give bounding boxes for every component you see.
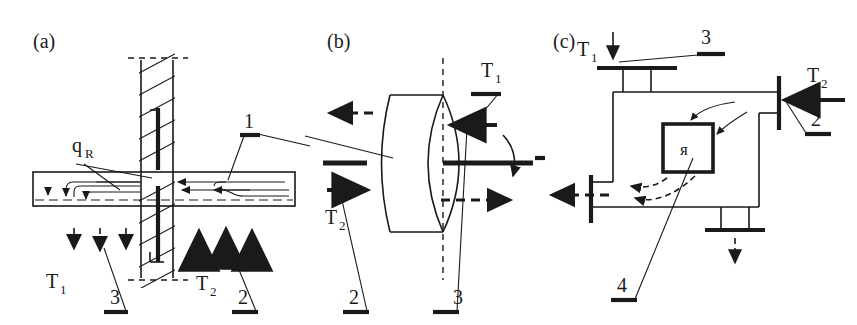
wall-section — [128, 48, 188, 294]
panel-b: (b) T 1 — [305, 0, 540, 325]
temp2-group: T 2 — [787, 64, 845, 100]
temp2-arrows — [199, 232, 252, 250]
cylinder-left-edge — [382, 95, 391, 232]
flow-lines-right — [178, 182, 289, 196]
cylinder-right-face-inner — [428, 95, 443, 232]
core-symbol: я — [680, 140, 688, 159]
temp2-label: T — [325, 206, 337, 228]
callout-3-leader — [619, 55, 698, 62]
panel-c: (c) я — [535, 0, 857, 325]
panel-a-label: (a) — [33, 30, 55, 53]
temp1-group: T 1 — [471, 59, 502, 122]
callout-2-group: 2 — [341, 196, 369, 312]
temp1-label: T — [481, 59, 493, 81]
panel-b-label: (b) — [327, 30, 350, 53]
channel-body — [33, 172, 295, 206]
callout-2-group: 2 — [230, 248, 258, 312]
callout-3-group: 3 — [619, 26, 725, 62]
temp2-label-subscript: 2 — [821, 76, 828, 91]
temp1-arrows — [74, 228, 126, 250]
temp1-group: T 1 — [577, 32, 613, 65]
callout-1-label: 1 — [244, 110, 254, 132]
temp2-label: T — [196, 272, 208, 294]
temp2-label-subscript: 2 — [339, 218, 346, 233]
flow-lines-left — [48, 182, 140, 199]
callout-2-leader — [785, 100, 806, 133]
callout-1-group: 1 — [228, 110, 310, 180]
temp1-leader — [475, 93, 499, 122]
temp1-label-subscript: 1 — [60, 282, 67, 297]
figure-root: (a) — [0, 0, 857, 325]
temp1-label: T — [46, 270, 58, 292]
outlet-arrow-1 — [631, 178, 667, 187]
temp1-label: T — [577, 38, 589, 60]
callout-1-leader-into-b — [305, 136, 393, 158]
callout-1-leader-b — [228, 136, 244, 180]
panel-a: (a) — [0, 0, 310, 325]
inlet-arrow-2 — [717, 112, 747, 134]
callout-1-leader-a — [258, 134, 310, 146]
temp1-label-subscript: 1 — [495, 71, 502, 86]
callout-3-group: 3 — [104, 248, 128, 312]
callout-3-label: 3 — [701, 26, 711, 48]
rotation-arrow — [503, 135, 515, 176]
core-element: я — [663, 124, 713, 172]
temp2-group: T 2 — [325, 206, 346, 233]
callout-2-label: 2 — [811, 108, 821, 130]
callout-2-group: 2 — [785, 100, 831, 134]
panel-c-label: (c) — [553, 30, 575, 53]
callout-4-label: 4 — [617, 274, 627, 296]
temp2-label: T — [807, 64, 819, 86]
inlet-arrow-1 — [691, 102, 735, 120]
callout-4-group: 4 — [611, 158, 693, 300]
callout-2-label: 2 — [349, 286, 359, 308]
flux-label: q — [72, 134, 82, 157]
flux-label-subscript: R — [85, 146, 94, 161]
temp2-label-subscript: 2 — [210, 284, 217, 299]
temp1-label-subscript: 1 — [591, 50, 598, 65]
